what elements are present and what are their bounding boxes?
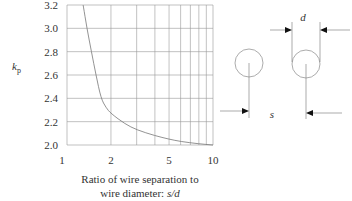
x-tick-labels: 12510 — [59, 154, 219, 166]
y-tick-label: 3.0 — [44, 22, 58, 34]
d-label: d — [300, 11, 306, 23]
d-arrowhead-left — [285, 27, 292, 33]
x-axis-label-line1: Ratio of wire separation to — [81, 173, 199, 185]
y-tick-label: 2.0 — [44, 139, 58, 151]
s-label: s — [270, 108, 274, 120]
d-arrowhead-right — [320, 27, 327, 33]
x-tick-label: 2 — [108, 154, 114, 166]
y-tick-label: 2.2 — [44, 116, 58, 128]
grid — [67, 5, 213, 145]
y-tick-labels: 2.02.22.42.62.83.03.2 — [44, 0, 58, 151]
figure: 2.02.22.42.62.83.03.2 12510 kp Ratio of … — [0, 0, 352, 201]
s-arrowhead-left — [242, 108, 249, 114]
y-tick-label: 2.4 — [44, 92, 58, 104]
arrowheads — [242, 27, 327, 116]
x-tick-label: 5 — [166, 154, 172, 166]
y-tick-label: 2.6 — [44, 69, 58, 81]
y-tick-label: 3.2 — [44, 0, 58, 11]
x-tick-label: 10 — [208, 154, 220, 166]
y-axis-label: kp — [12, 60, 21, 75]
s-arrowhead-right — [306, 110, 313, 116]
x-tick-label: 1 — [59, 154, 65, 166]
wire-diagram — [220, 22, 350, 119]
x-axis-label-line2: wire diameter: s/d — [100, 187, 180, 199]
y-tick-label: 2.8 — [44, 46, 58, 58]
